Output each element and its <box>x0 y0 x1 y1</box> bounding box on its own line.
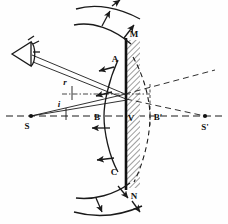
eye-symbol <box>12 36 40 66</box>
label-angle-i: i <box>58 99 61 109</box>
optics-diagram-figure: S S' B B' V A C M N r i <box>0 0 228 224</box>
label-image-S-prime: S' <box>201 122 209 132</box>
label-mirror-bottom-N: N <box>131 191 138 201</box>
label-mirror-top-M: M <box>130 29 139 39</box>
point-S-dot <box>29 114 33 118</box>
label-wavefront-B: B <box>94 112 100 122</box>
angle-arc-marks <box>66 86 72 120</box>
label-wavefront-B-prime: B' <box>154 112 163 122</box>
label-angle-r: r <box>63 77 67 87</box>
incident-ray-from-source <box>31 94 127 116</box>
point-S-prime-dot <box>203 114 207 118</box>
diagram-canvas: S S' B B' V A C M N r i <box>0 0 228 224</box>
label-point-A: A <box>112 54 119 64</box>
label-point-C: C <box>111 167 118 177</box>
label-vertex-V: V <box>128 113 135 123</box>
label-source-S: S <box>24 121 29 131</box>
